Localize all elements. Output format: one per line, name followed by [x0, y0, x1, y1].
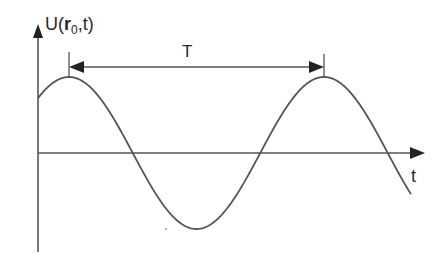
period-arrow-left-icon	[69, 61, 84, 73]
stray-dot	[165, 228, 167, 230]
y-axis-label: U(r0,t)	[45, 14, 94, 37]
y-label-var: r	[64, 14, 71, 34]
y-axis-arrow-icon	[33, 24, 43, 38]
x-axis-label: t	[411, 166, 416, 186]
period-label: T	[182, 42, 192, 61]
y-label-prefix: U(	[45, 14, 64, 34]
y-label-suffix: ,t)	[78, 14, 94, 34]
x-axis-arrow-icon	[410, 147, 425, 159]
diagram-canvas: T t U(r0,t)	[0, 0, 443, 258]
period-arrow-right-icon	[309, 61, 324, 73]
